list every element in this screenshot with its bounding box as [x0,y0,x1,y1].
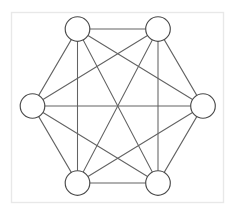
graph-node-circle-n1[interactable] [146,17,171,42]
graph-node-circle-n0[interactable] [65,17,90,42]
figure-root [0,0,237,215]
graph-diagram-canvas [0,0,237,215]
graph-node-circle-n5[interactable] [20,94,45,119]
graph-node-circle-n2[interactable] [191,94,216,119]
graph-node-circle-n3[interactable] [146,171,171,196]
graph-node-right[interactable] [191,94,216,119]
graph-node-top-right[interactable] [146,17,171,42]
graph-node-bottom-right[interactable] [146,171,171,196]
graph-node-left[interactable] [20,94,45,119]
graph-node-bottom-left[interactable] [65,171,90,196]
graph-node-circle-n4[interactable] [65,171,90,196]
graph-node-top-left[interactable] [65,17,90,42]
